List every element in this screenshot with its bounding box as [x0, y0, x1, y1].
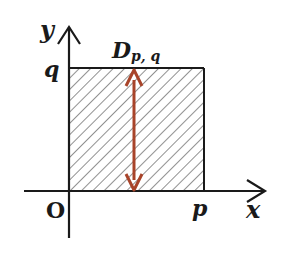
region-diagram: y q Dp, q O p x: [0, 0, 282, 264]
y-tick-label: q: [44, 56, 59, 82]
x-axis-label: x: [245, 195, 261, 224]
y-axis-label: y: [39, 15, 56, 44]
region-label: Dp, q: [111, 37, 161, 64]
hatched-region: [69, 68, 204, 191]
region-label-subscript: p, q: [131, 48, 161, 64]
origin-label: O: [46, 197, 65, 223]
x-tick-label: p: [192, 195, 208, 221]
region-label-main: D: [111, 37, 131, 63]
